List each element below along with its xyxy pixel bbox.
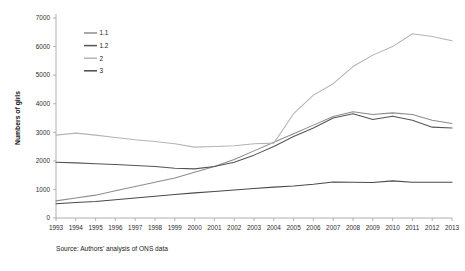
x-tick-label: 1998 [148,224,163,231]
y-axis-title: Numbers of girls [14,91,22,145]
x-axis: 1993199419951996199719981999200020012002… [49,218,460,231]
y-tick-label: 3000 [36,129,51,136]
x-tick-label: 2011 [406,224,420,231]
x-tick-label: 2010 [385,224,400,231]
series-lines [56,34,452,204]
x-tick-label: 2003 [247,224,262,231]
x-tick-label: 2004 [267,224,282,231]
series-line-1-1 [56,112,452,201]
chart-svg: 01000200030004000500060007000 1993199419… [0,0,465,240]
y-axis: 01000200030004000500060007000 [36,14,56,221]
y-tick-label: 1000 [36,186,51,193]
legend-label-2: 2 [100,55,104,62]
legend-label-3: 3 [100,67,104,74]
series-line-1-2 [56,114,452,169]
line-chart: 01000200030004000500060007000 1993199419… [0,0,465,240]
x-tick-label: 1994 [69,224,84,231]
chart-figure: 01000200030004000500060007000 1993199419… [0,0,465,271]
y-tick-label: 6000 [36,43,51,50]
series-line-2 [56,34,452,147]
legend-label-1-1: 1.1 [100,29,109,36]
x-tick-label: 1997 [128,224,143,231]
y-tick-label: 7000 [36,14,51,21]
x-tick-label: 1993 [49,224,64,231]
source-note: Source: Authors' analysis of ONS data [56,245,168,252]
y-axis-title-text: Numbers of girls [14,91,22,145]
x-tick-label: 1995 [88,224,103,231]
x-tick-label: 2009 [366,224,381,231]
x-tick-label: 2006 [306,224,321,231]
x-tick-label: 2007 [326,224,341,231]
legend-label-1-2: 1.2 [100,42,109,49]
series-line-3 [56,181,452,204]
y-tick-label: 2000 [36,157,51,164]
x-tick-label: 2001 [207,224,222,231]
x-tick-label: 1996 [108,224,123,231]
x-tick-label: 2005 [286,224,301,231]
y-tick-label: 0 [46,214,50,221]
x-tick-label: 2000 [187,224,202,231]
x-tick-label: 2012 [425,224,440,231]
chart-legend: 1.11.223 [84,29,109,74]
x-tick-label: 2002 [227,224,242,231]
x-tick-label: 2013 [445,224,460,231]
y-tick-label: 5000 [36,71,51,78]
y-tick-label: 4000 [36,100,51,107]
x-tick-label: 1999 [168,224,183,231]
x-tick-label: 2008 [346,224,361,231]
